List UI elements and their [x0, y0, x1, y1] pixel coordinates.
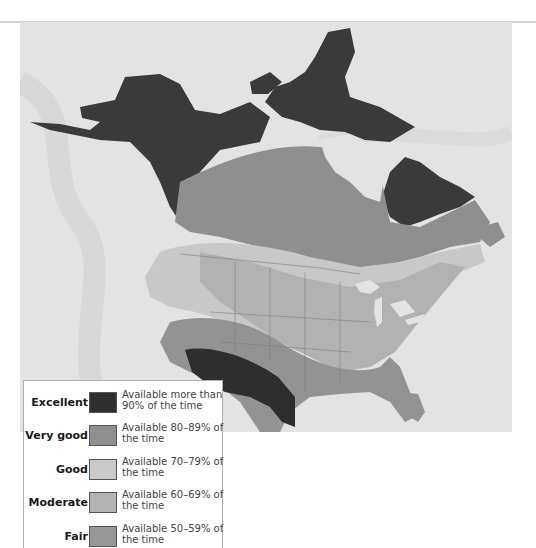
legend-item-very-good: Very good Available 80–89% of the time: [24, 425, 224, 449]
legend-label: Fair: [65, 530, 89, 543]
legend-label: Excellent: [31, 396, 88, 409]
legend-swatch-fair: [89, 526, 117, 547]
legend-description: Available more than 90% of the time: [122, 389, 226, 411]
legend-label: Moderate: [29, 496, 88, 509]
legend-description: Available 70–79% of the time: [122, 456, 226, 478]
legend-item-good: Good Available 70–79% of the time: [24, 459, 224, 483]
legend-swatch-very-good: [89, 425, 117, 446]
legend-description: Available 80–89% of the time: [122, 422, 226, 444]
legend-description: Available 50–59% of the time: [122, 523, 226, 545]
map-frame: [20, 22, 512, 432]
legend-description: Available 60–69% of the time: [122, 489, 226, 511]
legend-swatch-excellent: [89, 392, 117, 413]
legend-label: Very good: [25, 429, 88, 442]
legend-label: Good: [56, 463, 88, 476]
north-america-map: [20, 22, 512, 432]
legend-item-moderate: Moderate Available 60–69% of the time: [24, 492, 224, 516]
legend-swatch-moderate: [89, 492, 117, 513]
legend: Excellent Available more than 90% of the…: [23, 380, 223, 548]
legend-item-excellent: Excellent Available more than 90% of the…: [24, 392, 224, 416]
legend-swatch-good: [89, 459, 117, 480]
legend-item-fair: Fair Available 50–59% of the time: [24, 526, 224, 548]
region-excellent-arctic-islands: [265, 28, 415, 142]
